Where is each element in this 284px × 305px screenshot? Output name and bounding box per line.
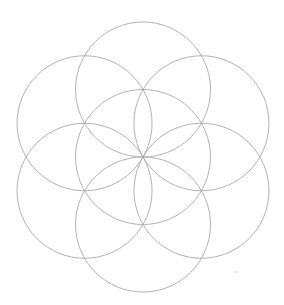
seed-of-life-diagram [0,0,284,305]
circle-group [17,22,269,292]
stray-dot [235,271,237,273]
